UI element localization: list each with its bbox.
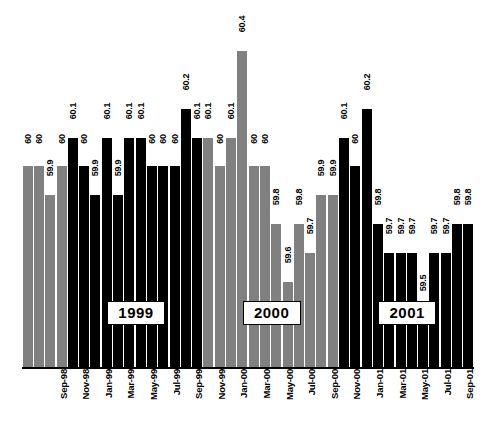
x-tick-label: Sep-00	[329, 369, 340, 421]
bar-feb-01: 60	[350, 8, 360, 368]
bar-value-label: 59.8	[452, 175, 462, 219]
bar-rect	[68, 138, 78, 368]
bar-rect	[203, 138, 213, 368]
bar-rect	[147, 166, 157, 368]
bar-dec-01: 59.8	[463, 8, 473, 368]
bar-value-label: 59.7	[396, 204, 406, 248]
bar-value-label: 60.2	[362, 60, 372, 104]
x-tick-label: Nov-98	[80, 369, 91, 421]
bar-value-label: 60	[350, 117, 360, 161]
bar-rect	[79, 166, 89, 368]
bar-feb-00: 60	[215, 8, 225, 368]
bar-rect	[181, 109, 191, 368]
bar-value-label: 59.9	[113, 146, 123, 190]
x-tick-label: Jan-00	[238, 369, 249, 421]
x-tick-label: Sep-98	[58, 369, 69, 421]
bar-nov-99: 60.2	[181, 8, 191, 368]
x-tick-label: Jul-99	[171, 369, 182, 421]
year-annotation-2000: 2000	[243, 301, 301, 325]
bar-value-label: 60.1	[339, 89, 349, 133]
bar-rect	[34, 166, 44, 368]
x-axis-tick-labels: Sep-98Nov-98Jan-99Mar-99May-99Jul-99Sep-…	[22, 369, 474, 425]
bar-rect	[192, 138, 202, 368]
bar-rect	[215, 166, 225, 368]
bar-mar-01: 60.2	[362, 8, 372, 368]
bar-rect	[316, 195, 326, 368]
x-tick-label: May-99	[148, 369, 159, 421]
bar-mar-00: 60.1	[226, 8, 236, 368]
x-tick-label: Jul-00	[306, 369, 317, 421]
bar-value-label: 60.4	[237, 2, 247, 46]
bar-value-label: 60.1	[68, 89, 78, 133]
bar-rect	[170, 166, 180, 368]
bar-rect	[328, 195, 338, 368]
bar-value-label: 60	[215, 117, 225, 161]
bar-value-label: 59.5	[418, 261, 428, 305]
bar-rect	[260, 166, 270, 368]
bar-rect	[271, 224, 281, 368]
bar-jan-99: 60.1	[68, 8, 78, 368]
bar-rect	[158, 166, 168, 368]
bar-value-label: 60.1	[203, 89, 213, 133]
bar-nov-00: 59.9	[316, 8, 326, 368]
x-tick-label: Jan-99	[103, 369, 114, 421]
bar-rect	[294, 224, 304, 368]
bar-rect	[124, 138, 134, 368]
bar-value-label: 60	[170, 117, 180, 161]
x-tick-label: Jul-01	[442, 369, 453, 421]
bar-oct-98: 60	[34, 8, 44, 368]
bar-value-label: 59.7	[407, 204, 417, 248]
bar-value-label: 60.1	[192, 89, 202, 133]
bar-value-label: 60	[57, 117, 67, 161]
bar-oct-99: 60	[170, 8, 180, 368]
bar-rect	[249, 166, 259, 368]
x-tick-label: Nov-00	[351, 369, 362, 421]
bar-value-label: 60.1	[124, 89, 134, 133]
bar-rect	[45, 195, 55, 368]
bar-nov-98: 59.9	[45, 8, 55, 368]
bar-value-label: 59.8	[373, 175, 383, 219]
x-tick-label: Sep-99	[193, 369, 204, 421]
x-tick-label: Mar-99	[125, 369, 136, 421]
bar-dec-00: 59.9	[328, 8, 338, 368]
bar-jan-00: 60.1	[203, 8, 213, 368]
year-annotation-1999: 1999	[107, 301, 165, 325]
bar-value-label: 59.9	[90, 146, 100, 190]
bar-value-label: 59.9	[316, 146, 326, 190]
bar-value-label: 59.7	[384, 204, 394, 248]
bar-sep-98: 60	[23, 8, 33, 368]
bar-value-label: 59.9	[328, 146, 338, 190]
bar-nov-01: 59.8	[452, 8, 462, 368]
bar-value-label: 59.8	[294, 175, 304, 219]
bar-dec-98: 60	[57, 8, 67, 368]
x-tick-label: Nov-99	[216, 369, 227, 421]
bar-value-label: 60	[260, 117, 270, 161]
bar-value-label: 60	[147, 117, 157, 161]
bar-value-label: 59.9	[45, 146, 55, 190]
bar-value-label: 59.8	[271, 175, 281, 219]
bar-rect	[23, 166, 33, 368]
bar-rect	[136, 138, 146, 368]
bar-value-label: 60.1	[136, 89, 146, 133]
bar-feb-99: 60	[79, 8, 89, 368]
year-annotation-2001: 2001	[378, 301, 436, 325]
bar-jan-01: 60.1	[339, 8, 349, 368]
bar-value-label: 59.8	[463, 175, 473, 219]
x-tick-label: May-00	[284, 369, 295, 421]
bar-value-label: 60	[79, 117, 89, 161]
bar-value-label: 60	[158, 117, 168, 161]
bar-rect	[102, 138, 112, 368]
bar-rect	[362, 109, 372, 368]
bar-rect	[463, 224, 473, 368]
bar-value-label: 60.1	[226, 89, 236, 133]
bar-value-label: 60	[34, 117, 44, 161]
bar-value-label: 59.6	[283, 233, 293, 277]
x-tick-label: Jan-01	[374, 369, 385, 421]
bar-value-label: 60.2	[181, 60, 191, 104]
bar-rect	[373, 224, 383, 368]
bar-rect	[90, 195, 100, 368]
bar-rect	[113, 195, 123, 368]
bar-value-label: 59.7	[429, 204, 439, 248]
bar-value-label: 60	[23, 117, 33, 161]
x-tick-label: Mar-00	[261, 369, 272, 421]
